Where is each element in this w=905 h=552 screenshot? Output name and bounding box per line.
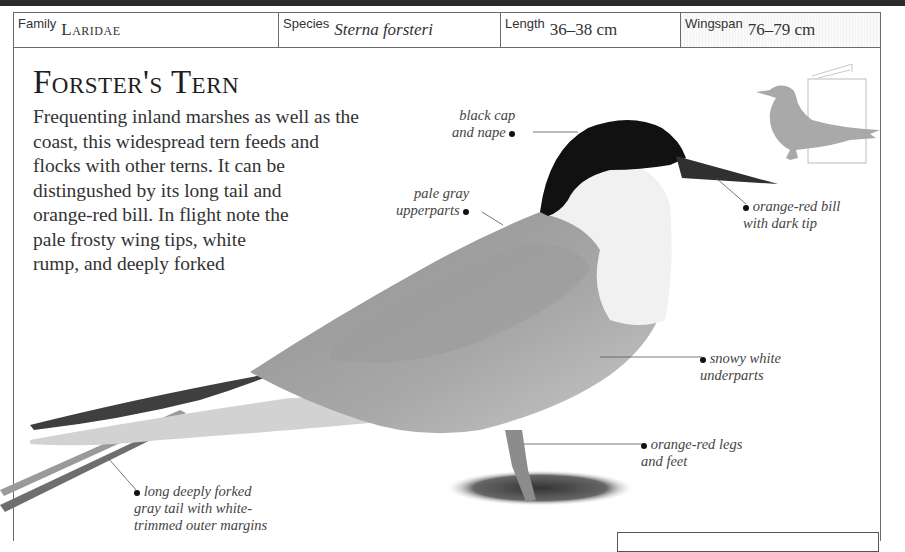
dot-icon bbox=[743, 205, 749, 211]
dot-icon bbox=[134, 490, 140, 496]
dot-icon bbox=[641, 443, 647, 449]
callout-bill-line: with dark tip bbox=[743, 215, 840, 232]
callout-tail-line: trimmed outer margins bbox=[134, 517, 267, 534]
callout-cap-line: black cap bbox=[452, 107, 515, 124]
callout-upperparts: pale gray upperparts bbox=[396, 185, 469, 219]
callout-upperparts-line: upperparts bbox=[396, 202, 469, 219]
book-scale-icon bbox=[808, 64, 866, 163]
callout-bill: orange-red bill with dark tip bbox=[743, 198, 840, 232]
callout-underparts-line: snowy white bbox=[700, 350, 781, 367]
callout-legs-line: and feet bbox=[641, 453, 742, 470]
dot-icon bbox=[700, 357, 706, 363]
callout-bill-line: orange-red bill bbox=[743, 198, 840, 215]
callout-legs: orange-red legs and feet bbox=[641, 436, 742, 470]
info-box bbox=[617, 532, 879, 552]
dot-icon bbox=[463, 209, 469, 215]
callout-cap-line: and nape bbox=[452, 124, 515, 141]
callout-underparts-line: underparts bbox=[700, 367, 781, 384]
callout-tail-line: long deeply forked bbox=[134, 483, 267, 500]
dot-icon bbox=[509, 131, 515, 137]
callout-legs-line: orange-red legs bbox=[641, 436, 742, 453]
callout-underparts: snowy white underparts bbox=[700, 350, 781, 384]
callout-upperparts-line: pale gray bbox=[396, 185, 469, 202]
callout-tail: long deeply forked gray tail with white-… bbox=[134, 483, 267, 534]
callout-tail-line: gray tail with white- bbox=[134, 500, 267, 517]
callout-cap: black cap and nape bbox=[452, 107, 515, 141]
